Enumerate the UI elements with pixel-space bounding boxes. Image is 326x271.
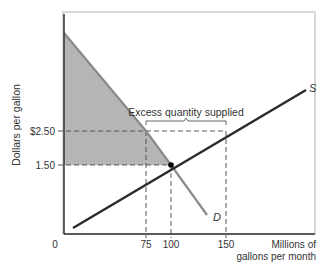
x-axis-label-line1: Millions of [272, 239, 317, 250]
supply-label: S [309, 82, 317, 94]
x-tick-100: 100 [163, 239, 180, 250]
y-tick-2-50: $2.50 [30, 126, 55, 137]
x-axis-label-line2: gallons per month [237, 251, 317, 262]
x-tick-75: 75 [140, 239, 152, 250]
y-axis-label: Dollars per gallon [10, 84, 22, 166]
equilibrium-point [168, 162, 174, 168]
y-tick-1-50: 1.50 [36, 160, 56, 171]
supply-demand-chart: S D Excess quantity supplied $2.50 1.50 … [0, 0, 326, 271]
excess-annotation: Excess quantity supplied [128, 106, 244, 118]
demand-label: D [213, 211, 221, 223]
x-tick-150: 150 [218, 239, 235, 250]
x-origin-label: 0 [52, 239, 58, 250]
